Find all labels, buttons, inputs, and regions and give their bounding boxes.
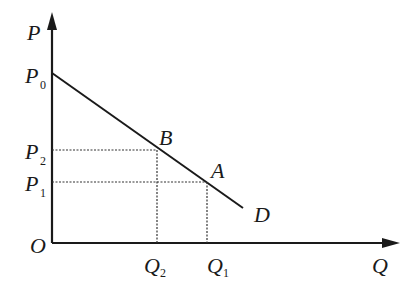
x-axis-arrow-icon <box>382 238 400 248</box>
y-axis-label: P <box>26 20 40 45</box>
x-axis-label: Q <box>372 253 388 278</box>
quantity-label-q1: Q 1 <box>207 253 229 280</box>
svg-text:Q: Q <box>144 253 160 278</box>
svg-text:2: 2 <box>160 266 166 280</box>
price-label-p1: P 1 <box>24 171 46 200</box>
point-b-label: B <box>159 125 172 150</box>
svg-text:P: P <box>24 171 38 196</box>
svg-text:Q: Q <box>207 253 223 278</box>
point-a-label: A <box>209 158 225 183</box>
demand-curve-line <box>52 73 243 208</box>
demand-diagram: P Q O P 0 P 2 P 1 Q 2 Q 1 B A D <box>0 0 414 306</box>
svg-text:1: 1 <box>223 266 229 280</box>
svg-text:1: 1 <box>40 186 46 200</box>
svg-text:P: P <box>24 63 38 88</box>
quantity-label-q2: Q 2 <box>144 253 166 280</box>
svg-text:P: P <box>24 139 38 164</box>
svg-text:2: 2 <box>40 154 46 168</box>
price-label-p0: P 0 <box>24 63 46 92</box>
y-axis-arrow-icon <box>47 12 57 30</box>
svg-text:0: 0 <box>40 78 46 92</box>
price-label-p2: P 2 <box>24 139 46 168</box>
curve-d-label: D <box>253 202 270 227</box>
origin-label: O <box>30 233 46 258</box>
